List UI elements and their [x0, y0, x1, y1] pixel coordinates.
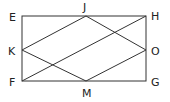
label-H: H: [151, 10, 159, 23]
geometry-diagram: E J H K O F M G: [0, 0, 170, 102]
label-F: F: [9, 76, 15, 89]
label-M: M: [82, 87, 92, 100]
label-O: O: [151, 45, 160, 58]
label-J: J: [82, 1, 86, 14]
label-K: K: [8, 45, 16, 58]
label-E: E: [9, 11, 16, 24]
diagonal-FH: [22, 16, 146, 81]
label-G: G: [151, 76, 160, 89]
